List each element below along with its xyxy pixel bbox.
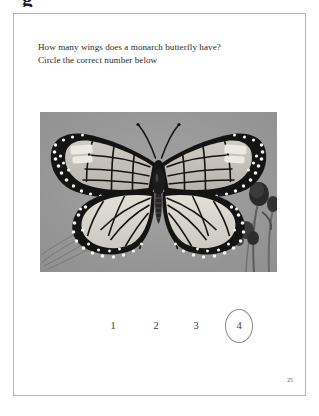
circled-answer-marker — [225, 309, 253, 343]
answer-choices-row: 1 2 3 4 — [14, 308, 305, 348]
question-prompt: How many wings does a monarch butterfly … — [38, 41, 278, 66]
page-number: 25 — [287, 377, 293, 383]
answer-choice-2[interactable]: 2 — [142, 308, 170, 344]
cropped-header-glyph: g — [22, 0, 46, 7]
monarch-butterfly-image — [40, 112, 277, 272]
worksheet-page: How many wings does a monarch butterfly … — [13, 13, 306, 396]
question-line-1: How many wings does a monarch butterfly … — [38, 41, 278, 54]
answer-choice-1[interactable]: 1 — [99, 308, 127, 344]
butterfly-illustration-svg — [40, 112, 277, 272]
answer-choice-3[interactable]: 3 — [182, 308, 210, 344]
question-line-2: Circle the correct number below — [38, 54, 278, 67]
